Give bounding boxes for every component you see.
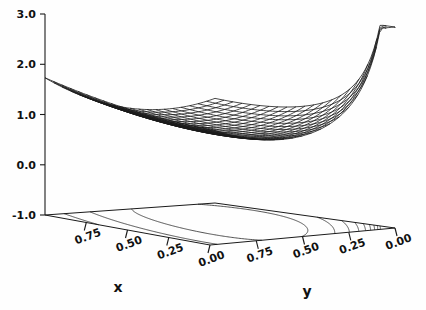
contour-line [355,222,359,231]
contour-line [132,204,308,240]
surface-line-u [198,47,377,116]
y-axis-tick-label: 0.00 [384,231,414,253]
y-axis-tick-label: 0.50 [291,240,321,262]
contour-line [64,214,349,233]
y-axis-tick-label: 0.75 [245,244,275,265]
z-axis-tick-label: 3.0 [17,8,37,21]
z-axis-tick-label: 2.0 [17,58,37,71]
y-axis-tick-label: 0.25 [337,236,367,257]
surface-line-v [45,78,215,110]
x-axis-tick-label: 0.00 [197,248,227,270]
contour-line [369,224,370,230]
axes: 3.02.01.00.0-1.00.750.500.250.00x0.750.5… [12,8,414,299]
z-axis-tick-label: 1.0 [17,109,37,122]
z-axis-tick-label: 0.0 [17,159,37,172]
contour-line [374,225,375,230]
surface-line-u [45,78,210,129]
contour-line [363,224,365,231]
x-axis-tick-label: 0.25 [155,241,185,262]
x-axis-title: x [113,279,122,295]
surface-line-u [215,25,395,107]
surface-line-u [207,27,386,111]
surface-line-v [202,26,386,140]
x-axis-tick-label: 0.50 [114,233,144,255]
y-axis-title: y [302,283,311,299]
z-axis-tick-label: -1.0 [12,209,36,222]
plot-canvas: 3.02.01.00.0-1.00.750.500.250.00x0.750.5… [0,0,426,310]
surface-plot-figure: 3.02.01.00.0-1.00.750.500.250.00x0.750.5… [0,0,426,310]
wireframe-surface [45,25,395,140]
x-axis-tick-label: 0.75 [73,226,103,247]
